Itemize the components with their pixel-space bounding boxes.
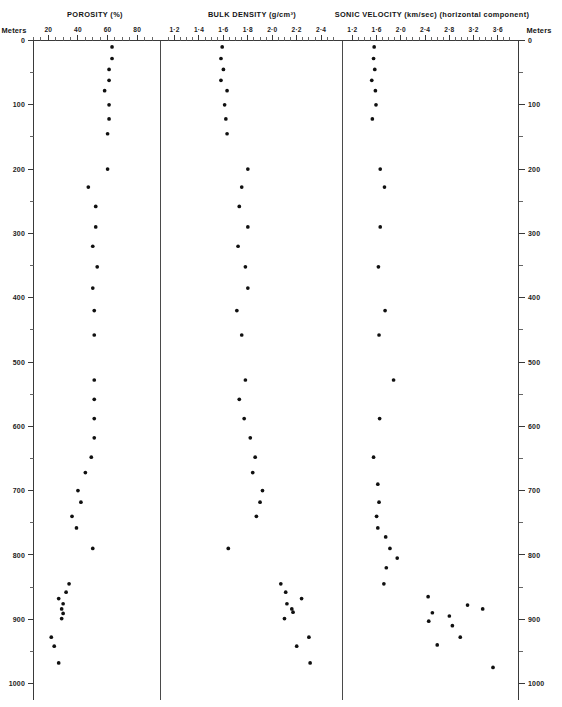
data-point xyxy=(435,643,439,647)
data-point xyxy=(92,378,96,382)
data-point xyxy=(377,265,381,269)
x-axis-sonic_velocity xyxy=(352,35,510,41)
depth-tick-label-left: 600 xyxy=(13,423,25,430)
data-point xyxy=(94,205,98,209)
data-point xyxy=(57,661,61,665)
data-point xyxy=(377,333,381,337)
data-point xyxy=(372,45,376,49)
depth-tick-label-right: 800 xyxy=(528,552,540,559)
data-point xyxy=(427,619,431,623)
data-point xyxy=(52,644,56,648)
panel-title-text-porosity: POROSITY (%) xyxy=(67,10,123,19)
data-point xyxy=(373,68,377,72)
data-point xyxy=(466,603,470,607)
data-point xyxy=(246,167,250,171)
data-point xyxy=(491,666,495,670)
tick-labels-layer: 204060801·21·41·61·82·02·22·41·21·62·02·… xyxy=(9,26,545,687)
data-point xyxy=(251,471,255,475)
depth-tick-label-left: 800 xyxy=(13,552,25,559)
data-point xyxy=(261,489,265,493)
data-point xyxy=(378,167,382,171)
depth-tick-label-right: 0 xyxy=(528,37,532,44)
data-point xyxy=(84,471,88,475)
data-point xyxy=(307,635,311,639)
data-point xyxy=(220,45,224,49)
data-point xyxy=(107,68,111,72)
data-point xyxy=(49,635,53,639)
depth-tick-label-right: 900 xyxy=(528,616,540,623)
data-point xyxy=(376,482,380,486)
data-point xyxy=(383,309,387,313)
data-point xyxy=(374,103,378,107)
data-point xyxy=(384,535,388,539)
panel-title-bulk_density: BULK DENSITY (g/cm³) xyxy=(208,10,296,19)
data-point xyxy=(447,614,451,618)
data-point xyxy=(284,590,288,594)
data-series-porosity xyxy=(49,45,113,665)
data-point xyxy=(70,514,74,518)
x-axis-bulk_density xyxy=(168,35,333,41)
x-tick-label: 1·4 xyxy=(194,26,204,33)
data-layer xyxy=(49,45,494,669)
data-point xyxy=(110,45,114,49)
x-tick-label: 3·2 xyxy=(469,26,479,33)
depth-tick-label-right: 400 xyxy=(528,294,540,301)
x-tick-label: 2·8 xyxy=(444,26,454,33)
data-point xyxy=(89,455,93,459)
data-point xyxy=(67,582,71,586)
data-point xyxy=(224,117,228,121)
data-point xyxy=(225,89,229,93)
data-point xyxy=(371,117,375,121)
data-point xyxy=(61,602,65,606)
x-tick-label: 20 xyxy=(44,26,52,33)
depth-tick-label-right: 500 xyxy=(528,359,540,366)
data-point xyxy=(94,225,98,229)
data-point xyxy=(285,602,289,606)
data-point xyxy=(258,500,262,504)
depth-tick-label-left: 0 xyxy=(21,37,25,44)
data-point xyxy=(370,79,374,83)
data-point xyxy=(291,610,295,614)
data-point xyxy=(92,436,96,440)
x-tick-label: 60 xyxy=(104,26,112,33)
x-tick-label: 80 xyxy=(133,26,141,33)
data-point xyxy=(395,556,399,560)
data-point xyxy=(60,607,64,611)
data-point xyxy=(244,378,248,382)
data-point xyxy=(426,595,430,599)
depth-tick-label-right: 1000 xyxy=(528,680,544,687)
data-point xyxy=(240,333,244,337)
data-point xyxy=(392,378,396,382)
data-point xyxy=(382,582,386,586)
well-log-figure: POROSITY (%)BULK DENSITY (g/cm³)SONIC VE… xyxy=(0,0,562,707)
data-point xyxy=(246,225,250,229)
data-point xyxy=(374,89,378,93)
data-point xyxy=(95,265,99,269)
x-tick-label: 1·8 xyxy=(243,26,253,33)
axes-layer xyxy=(28,35,525,700)
data-point xyxy=(235,309,239,313)
x-tick-label: 1·2 xyxy=(347,26,357,33)
data-point xyxy=(237,205,241,209)
data-point xyxy=(107,79,111,83)
data-point xyxy=(372,57,376,61)
data-point xyxy=(225,132,229,136)
well-log-svg: POROSITY (%)BULK DENSITY (g/cm³)SONIC VE… xyxy=(0,0,562,707)
x-tick-label: 2·0 xyxy=(267,26,277,33)
data-point xyxy=(244,265,248,269)
data-point xyxy=(458,635,462,639)
data-point xyxy=(384,566,388,570)
data-point xyxy=(75,526,79,530)
x-tick-label: 3·6 xyxy=(493,26,503,33)
depth-tick-label-left: 500 xyxy=(13,359,25,366)
x-tick-label: 2·0 xyxy=(396,26,406,33)
data-point xyxy=(91,244,95,248)
data-point xyxy=(236,244,240,248)
data-point xyxy=(481,607,485,611)
x-axis-porosity xyxy=(34,35,153,41)
data-point xyxy=(91,286,95,290)
data-point xyxy=(253,455,257,459)
data-point xyxy=(103,89,107,93)
data-point xyxy=(76,489,80,493)
data-point xyxy=(107,117,111,121)
